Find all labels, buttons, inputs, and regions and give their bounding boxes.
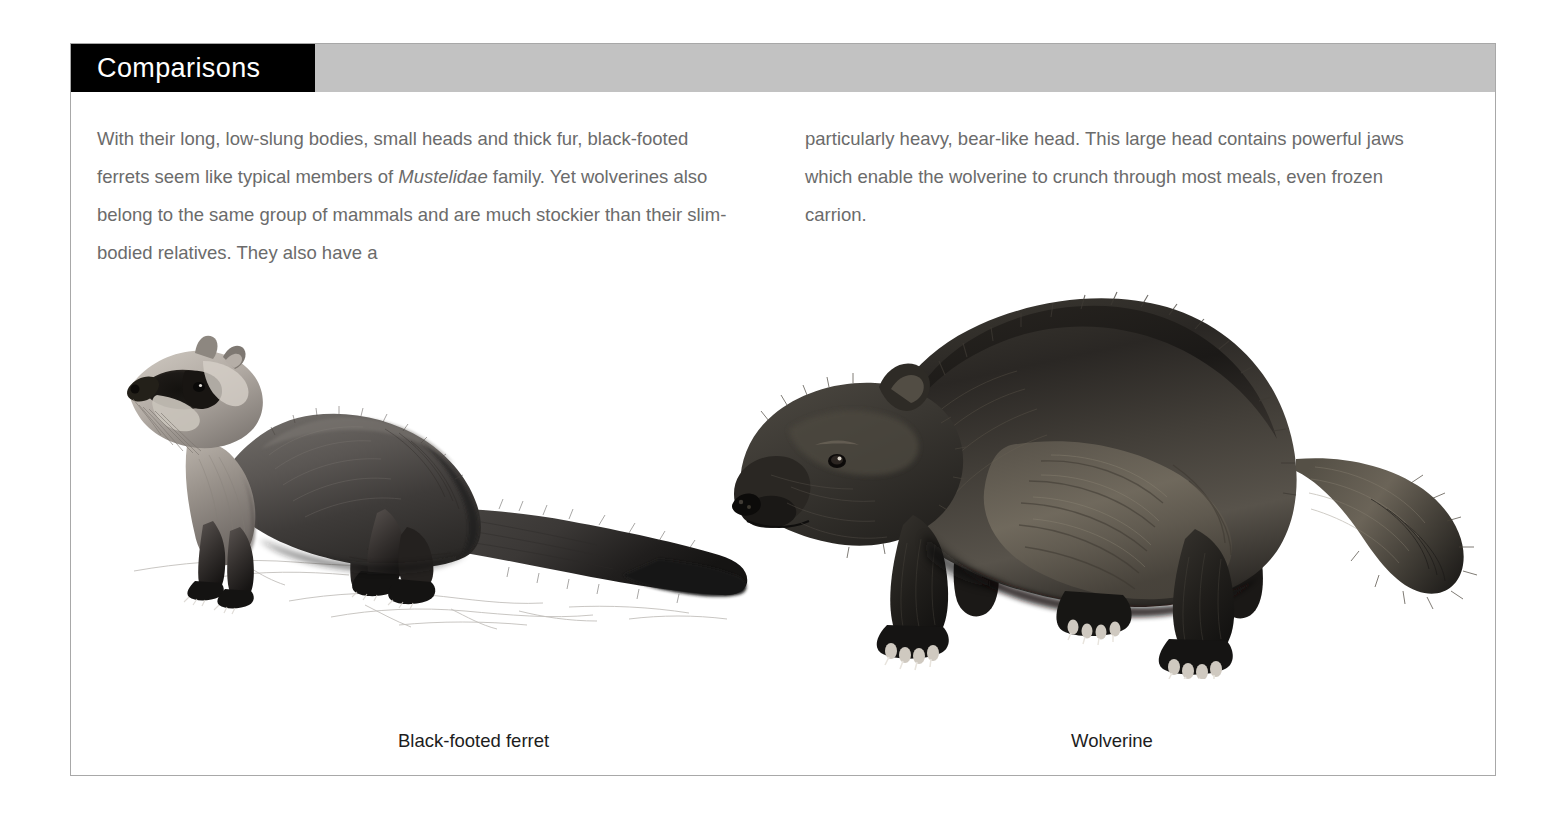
section-header-band: Comparisons: [71, 44, 1495, 92]
wolverine-illustration: [711, 259, 1501, 679]
right-text-column: particularly heavy, bear-like head. This…: [805, 120, 1435, 272]
section-title-block: Comparisons: [71, 44, 315, 92]
figure-captions: Black-footed ferret Wolverine: [71, 730, 1495, 760]
body-text-columns: With their long, low-slung bodies, small…: [71, 92, 1495, 272]
taxon-name-mustelidae: Mustelidae: [398, 166, 487, 187]
right-column-paragraph: particularly heavy, bear-like head. This…: [805, 120, 1435, 234]
caption-black-footed-ferret: Black-footed ferret: [398, 730, 549, 752]
left-column-paragraph: With their long, low-slung bodies, small…: [97, 120, 727, 272]
wolverine-tail: [1296, 458, 1477, 609]
illustration-area: [71, 259, 1495, 709]
caption-wolverine: Wolverine: [1071, 730, 1153, 752]
comparisons-page-panel: Comparisons With their long, low-slung b…: [70, 43, 1496, 776]
left-text-column: With their long, low-slung bodies, small…: [97, 120, 727, 272]
ferret-body: [224, 406, 481, 568]
header-gray-bar: [315, 44, 1495, 92]
black-footed-ferret-illustration: [99, 309, 789, 639]
page-title: Comparisons: [97, 53, 260, 84]
ferret-head: [127, 336, 263, 455]
wolverine-hind-paw-far: [1056, 591, 1131, 645]
ferret-front-legs: [184, 521, 254, 614]
